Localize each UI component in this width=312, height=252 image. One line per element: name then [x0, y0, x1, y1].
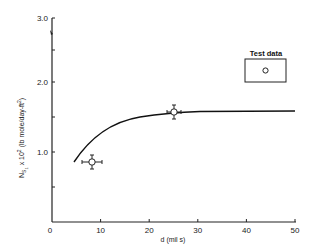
- chart: 1.0 2.0 3.0 0 10 20 30 40 50 d (mil s) N…: [0, 0, 312, 252]
- x-tick-label-10: 10: [96, 226, 105, 235]
- data-point-2: [167, 105, 181, 119]
- x-tick-label-40: 40: [242, 226, 251, 235]
- y-tick-label-1: 1.0: [37, 148, 49, 157]
- x-tick-label-20: 20: [145, 226, 154, 235]
- x-tick-label-30: 30: [193, 226, 202, 235]
- data-point-1: [82, 155, 102, 169]
- x-tick-label-0: 0: [48, 226, 53, 235]
- y-axis-title: NS1x 102(lb mole/day-ft2): [16, 98, 29, 178]
- x-axis-title: d (mil s): [161, 236, 186, 244]
- legend-title: Test data: [250, 49, 283, 58]
- svg-text:NS1x 102(lb mole/day-ft2): NS1x 102(lb mole/day-ft2): [16, 98, 29, 178]
- legend: Test data: [245, 49, 286, 82]
- legend-marker-icon: [263, 68, 268, 73]
- y-tick-label-2: 2.0: [37, 78, 49, 87]
- x-tick-label-50: 50: [291, 226, 300, 235]
- y-tick-label-3: 3.0: [37, 14, 49, 23]
- theory-curve: [74, 111, 295, 162]
